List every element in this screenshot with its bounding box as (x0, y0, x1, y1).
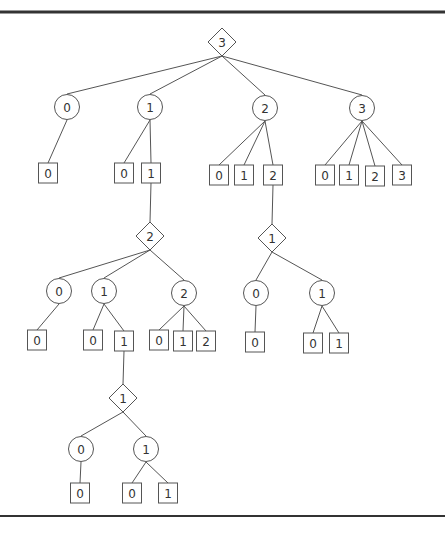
node-label: 3 (358, 102, 366, 116)
tree-edges (37, 56, 402, 483)
node-label: 1 (240, 169, 248, 183)
circle-node: 0 (244, 281, 269, 306)
diamond-node: 2 (136, 222, 164, 250)
tree-edge (255, 306, 256, 332)
node-label: 2 (269, 169, 277, 183)
circle-node: 1 (134, 437, 159, 462)
tree-edge (244, 121, 265, 165)
circle-node: 0 (55, 95, 80, 120)
node-label: 0 (44, 167, 52, 181)
tree-edge (104, 304, 124, 331)
square-node: 0 (210, 165, 229, 185)
node-label: 2 (202, 335, 210, 349)
node-label: 2 (146, 230, 154, 244)
tree-edge (272, 185, 273, 224)
node-label: 2 (261, 102, 269, 116)
node-label: 1 (142, 443, 150, 457)
square-node: 3 (393, 165, 412, 185)
node-label: 1 (318, 287, 326, 301)
node-label: 1 (345, 169, 353, 183)
square-node: 2 (366, 166, 385, 186)
square-node: 0 (84, 330, 103, 350)
tree-edge (159, 306, 184, 330)
tree-nodes: 3012300101201232101201001012001101001 (28, 28, 412, 503)
node-label: 0 (63, 101, 71, 115)
tree-edge (322, 306, 339, 333)
tree-edge (93, 304, 104, 330)
tree-edge (184, 306, 206, 331)
tree-edge (37, 304, 59, 330)
node-label: 3 (218, 36, 226, 50)
square-node: 1 (330, 333, 349, 353)
square-node: 0 (39, 163, 58, 183)
square-node: 2 (197, 331, 216, 351)
tree-edge (104, 250, 150, 278)
circle-node: 3 (350, 96, 375, 121)
tree-edge (150, 120, 151, 163)
node-label: 0 (251, 336, 259, 350)
node-label: 1 (120, 335, 128, 349)
square-node: 1 (174, 331, 193, 351)
circle-node: 0 (47, 279, 72, 304)
tree-edge (59, 250, 150, 278)
tree-edge (150, 183, 151, 222)
circle-node: 2 (172, 281, 197, 306)
node-label: 0 (128, 487, 136, 501)
square-node: 2 (264, 165, 283, 185)
diamond-node: 1 (258, 224, 286, 252)
circle-node: 1 (92, 279, 117, 304)
tree-edge (48, 120, 67, 163)
square-node: 1 (115, 331, 134, 351)
tree-edge (132, 462, 146, 483)
tree-edge (256, 252, 272, 280)
diamond-node: 3 (208, 28, 236, 56)
horizontal-rules (0, 12, 445, 516)
square-node: 1 (159, 483, 178, 503)
tree-diagram: 3012300101201232101201001012001101001 (0, 0, 445, 534)
square-node: 0 (123, 483, 142, 503)
node-label: 0 (76, 487, 84, 501)
node-label: 0 (77, 443, 85, 457)
node-label: 0 (215, 169, 223, 183)
square-node: 0 (71, 483, 90, 503)
node-label: 1 (179, 335, 187, 349)
square-node: 0 (150, 330, 169, 350)
node-label: 1 (164, 487, 172, 501)
tree-edge (123, 412, 146, 436)
node-label: 0 (120, 167, 128, 181)
node-label: 1 (100, 285, 108, 299)
tree-edge (81, 412, 123, 436)
square-node: 1 (340, 165, 359, 185)
tree-edge (272, 252, 322, 280)
node-label: 1 (119, 392, 127, 406)
circle-node: 0 (69, 437, 94, 462)
diamond-node: 1 (109, 384, 137, 412)
tree-edge (67, 56, 222, 94)
square-node: 0 (28, 330, 47, 350)
square-node: 0 (115, 163, 134, 183)
tree-edge (349, 121, 362, 165)
tree-edge (150, 250, 184, 280)
node-label: 0 (89, 334, 97, 348)
node-label: 0 (309, 337, 317, 351)
node-label: 1 (268, 232, 276, 246)
circle-node: 1 (138, 95, 163, 120)
tree-edge (219, 121, 265, 165)
square-node: 0 (246, 332, 265, 352)
tree-edge (124, 120, 150, 163)
square-node: 1 (235, 165, 254, 185)
node-label: 1 (335, 337, 343, 351)
node-label: 0 (155, 334, 163, 348)
tree-edge (150, 56, 222, 94)
node-label: 1 (147, 167, 155, 181)
node-label: 2 (371, 170, 379, 184)
node-label: 1 (146, 101, 154, 115)
node-label: 0 (252, 287, 260, 301)
node-label: 2 (180, 287, 188, 301)
node-label: 0 (321, 169, 329, 183)
circle-node: 2 (253, 96, 278, 121)
tree-edge (80, 462, 81, 483)
square-node: 0 (304, 333, 323, 353)
circle-node: 1 (310, 281, 335, 306)
square-node: 0 (316, 165, 335, 185)
